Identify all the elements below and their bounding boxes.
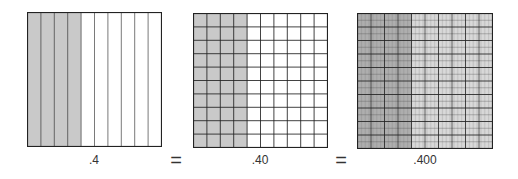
grid-tenths — [27, 12, 162, 147]
equals-sign-1: = — [166, 150, 186, 170]
grid-thousandths — [357, 13, 493, 149]
grid-hundredths — [193, 13, 328, 148]
label-tenths: .4 — [64, 153, 124, 167]
label-thousandths: .400 — [395, 153, 455, 167]
label-hundredths: .40 — [230, 153, 290, 167]
equivalent-decimals-diagram: .4 = .40 = .400 — [0, 0, 518, 179]
equals-sign-2: = — [331, 150, 351, 170]
